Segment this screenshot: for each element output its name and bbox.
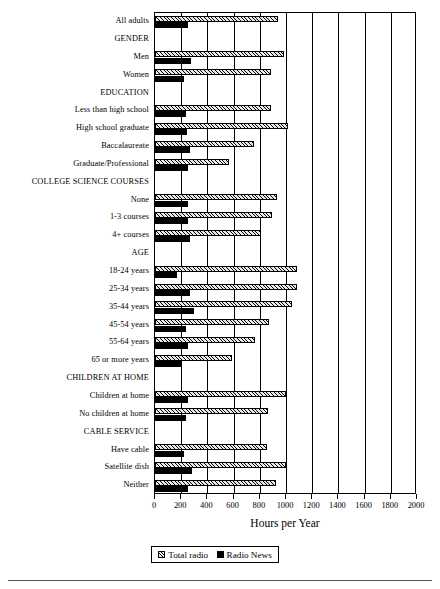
bar-radio-news <box>155 361 182 367</box>
bar-radio-news <box>155 308 194 314</box>
bar-total-radio <box>155 212 272 218</box>
category-label: 4+ courses <box>112 230 149 239</box>
x-tick-0 <box>154 494 155 499</box>
bar-radio-news <box>155 326 186 332</box>
bar-total-radio <box>155 284 297 290</box>
category-label: 18-24 years <box>109 266 149 275</box>
category-label: Neither <box>123 480 149 489</box>
chart-legend: Total radio Radio News <box>151 546 279 563</box>
bar-total-radio <box>155 301 292 307</box>
legend-label-total-radio: Total radio <box>168 550 208 560</box>
legend-swatch-hatched-icon <box>158 551 165 558</box>
x-tick-1400 <box>337 494 338 499</box>
bar-radio-news <box>155 272 177 278</box>
legend-item-radio-news: Radio News <box>217 550 272 560</box>
bar-radio-news <box>155 451 184 457</box>
bar-total-radio <box>155 123 288 129</box>
x-axis-ticks <box>154 494 416 500</box>
bars-layer <box>155 13 415 493</box>
bar-radio-news <box>155 58 191 64</box>
bar-radio-news <box>155 236 190 242</box>
bar-total-radio <box>155 462 286 468</box>
x-tick-label-200: 200 <box>174 501 187 511</box>
bar-radio-news <box>155 218 188 224</box>
category-label: Baccalaureate <box>101 141 149 150</box>
bar-radio-news <box>155 129 187 135</box>
bar-total-radio <box>155 141 254 147</box>
bar-total-radio <box>155 69 271 75</box>
bar-radio-news <box>155 22 188 28</box>
x-axis-title: Hours per Year <box>154 516 416 530</box>
category-group-label: CABLE SERVICE <box>84 427 149 436</box>
bar-total-radio <box>155 319 269 325</box>
bar-total-radio <box>155 105 271 111</box>
category-label: 45-54 years <box>109 320 149 329</box>
bar-radio-news <box>155 290 190 296</box>
category-axis-labels: All adultsGENDERMenWomenEDUCATIONLess th… <box>0 12 152 494</box>
bar-total-radio <box>155 408 268 414</box>
x-tick-label-2000: 2000 <box>408 501 425 511</box>
x-tick-1600 <box>364 494 365 499</box>
x-tick-label-1600: 1600 <box>355 501 372 511</box>
category-label: 1-3 courses <box>110 212 149 221</box>
x-tick-1200 <box>311 494 312 499</box>
chart-figure: All adultsGENDERMenWomenEDUCATIONLess th… <box>0 0 440 589</box>
bar-radio-news <box>155 147 190 153</box>
category-label: Graduate/Professional <box>73 159 149 168</box>
category-label: Women <box>123 70 149 79</box>
bar-radio-news <box>155 201 188 207</box>
category-label: Satellite dish <box>105 462 150 471</box>
bar-radio-news <box>155 165 188 171</box>
category-group-label: CHILDREN AT HOME <box>67 373 149 382</box>
bar-radio-news <box>155 76 184 82</box>
x-tick-label-0: 0 <box>152 501 156 511</box>
category-group-label: EDUCATION <box>100 88 149 97</box>
category-label: 35-44 years <box>109 302 149 311</box>
x-tick-1000 <box>285 494 286 499</box>
x-tick-2000 <box>416 494 417 499</box>
category-label: 25-34 years <box>109 284 149 293</box>
x-tick-label-1800: 1800 <box>381 501 398 511</box>
category-label: No children at home <box>79 409 149 418</box>
category-label: Have cable <box>111 445 149 454</box>
category-group-label: GENDER <box>114 34 149 43</box>
category-label: 65 or more years <box>91 355 149 364</box>
bar-radio-news <box>155 397 188 403</box>
x-tick-label-1000: 1000 <box>277 501 294 511</box>
bar-total-radio <box>155 355 232 361</box>
x-tick-600 <box>233 494 234 499</box>
bar-total-radio <box>155 159 229 165</box>
x-tick-200 <box>180 494 181 499</box>
bar-total-radio <box>155 16 278 22</box>
legend-label-radio-news: Radio News <box>227 550 272 560</box>
category-label: Less than high school <box>75 105 149 114</box>
category-label: Children at home <box>90 391 149 400</box>
bar-radio-news <box>155 486 188 492</box>
bar-total-radio <box>155 391 286 397</box>
category-label: All adults <box>116 16 150 25</box>
x-tick-1800 <box>390 494 391 499</box>
x-tick-label-400: 400 <box>200 501 213 511</box>
category-group-label: AGE <box>131 248 149 257</box>
bar-total-radio <box>155 444 267 450</box>
category-label: High school graduate <box>76 123 149 132</box>
bar-total-radio <box>155 51 284 57</box>
x-axis-tick-labels: 0200400600800100012001400160018002000 <box>0 501 440 513</box>
bar-radio-news <box>155 111 186 117</box>
bar-total-radio <box>155 266 297 272</box>
bar-total-radio <box>155 230 261 236</box>
bar-total-radio <box>155 337 255 343</box>
category-label: Men <box>133 52 149 61</box>
legend-item-total-radio: Total radio <box>158 550 208 560</box>
plot-area <box>154 12 416 494</box>
category-label: None <box>131 195 149 204</box>
legend-swatch-solid-icon <box>217 551 224 558</box>
bar-radio-news <box>155 468 192 474</box>
x-tick-800 <box>259 494 260 499</box>
x-tick-label-800: 800 <box>253 501 266 511</box>
category-label: 55-64 years <box>109 337 149 346</box>
bar-radio-news <box>155 343 188 349</box>
bar-radio-news <box>155 415 186 421</box>
bar-total-radio <box>155 480 276 486</box>
category-group-label: COLLEGE SCIENCE COURSES <box>32 177 149 186</box>
